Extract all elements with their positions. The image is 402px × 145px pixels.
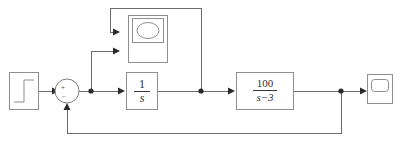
wire-branch-to-xygraph-input2: [91, 48, 120, 92]
step-input-block[interactable]: [10, 73, 39, 110]
plant-denominator: s−3: [256, 91, 274, 103]
scope-block[interactable]: [368, 75, 393, 104]
xy-graph-block[interactable]: [129, 16, 168, 63]
integrator-block[interactable]: 1 s: [127, 73, 158, 110]
sum-minus-sign: −: [62, 93, 66, 101]
plant-numerator: 100: [257, 77, 274, 89]
plant-transfer-function-block[interactable]: 100 s−3: [237, 73, 294, 110]
sum-output-junction: [88, 88, 93, 93]
integrator-output-junction: [198, 88, 203, 93]
plant-output-junction: [338, 88, 343, 93]
wire-feedback-to-sum: [64, 91, 342, 133]
summing-junction[interactable]: + −: [55, 79, 79, 103]
integrator-numerator: 1: [139, 77, 145, 91]
block-diagram-canvas: + − 1 s 100 s−3: [0, 0, 402, 145]
integrator-denominator: s: [140, 91, 145, 105]
block-diagram-svg: + − 1 s 100 s−3: [0, 0, 402, 145]
sum-plus-sign: +: [61, 84, 65, 92]
wire-plant-to-scope: [294, 88, 367, 95]
wire-integrator-to-plant: [158, 88, 235, 95]
wire-sum-to-integrator: [79, 88, 125, 95]
